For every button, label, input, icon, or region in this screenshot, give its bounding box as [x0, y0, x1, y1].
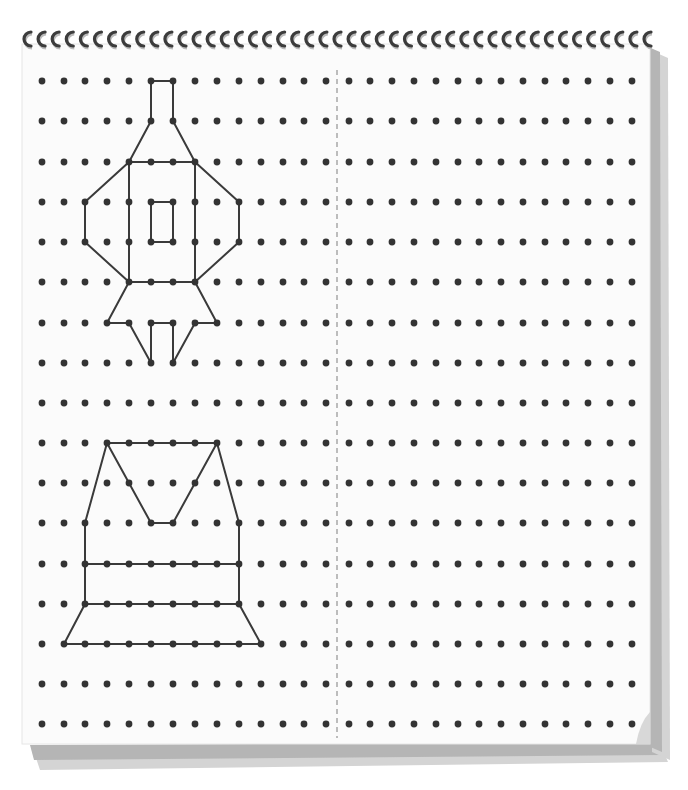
grid-dot [192, 159, 199, 166]
grid-dot [236, 320, 243, 327]
grid-dot [476, 320, 483, 327]
grid-dot [280, 78, 287, 85]
grid-dot [542, 118, 549, 125]
grid-dot [126, 721, 133, 728]
grid-dot [126, 681, 133, 688]
grid-dot [520, 561, 527, 568]
grid-dot [126, 400, 133, 407]
grid-dot [170, 239, 177, 246]
grid-dot [607, 561, 614, 568]
grid-dot [323, 360, 330, 367]
grid-dot [39, 320, 46, 327]
grid-dot [607, 641, 614, 648]
grid-dot [126, 279, 133, 286]
grid-dot [323, 279, 330, 286]
grid-dot [280, 400, 287, 407]
grid-dot [346, 118, 353, 125]
grid-dot [104, 601, 111, 608]
grid-dot [236, 159, 243, 166]
grid-dot [455, 199, 462, 206]
grid-dot [323, 601, 330, 608]
grid-dot [126, 320, 133, 327]
grid-dot [280, 681, 287, 688]
grid-dot [170, 641, 177, 648]
grid-dot [629, 199, 636, 206]
grid-dot [192, 279, 199, 286]
grid-dot [214, 199, 221, 206]
grid-dot [433, 199, 440, 206]
grid-dot [192, 320, 199, 327]
grid-dot [148, 601, 155, 608]
grid-dot [542, 400, 549, 407]
worksheet-page [0, 0, 688, 790]
grid-dot [367, 641, 374, 648]
grid-dot [629, 279, 636, 286]
grid-dot [323, 721, 330, 728]
grid-dot [542, 480, 549, 487]
grid-dot [563, 159, 570, 166]
grid-dot [346, 279, 353, 286]
grid-dot [39, 400, 46, 407]
grid-dot [629, 239, 636, 246]
grid-dot [520, 480, 527, 487]
grid-dot [433, 279, 440, 286]
grid-dot [148, 561, 155, 568]
grid-dot [236, 480, 243, 487]
grid-dot [367, 78, 374, 85]
grid-dot [323, 320, 330, 327]
grid-dot [563, 681, 570, 688]
grid-dot [39, 480, 46, 487]
grid-dot [104, 400, 111, 407]
grid-dot [323, 480, 330, 487]
grid-dot [104, 440, 111, 447]
grid-dot [476, 480, 483, 487]
grid-dot [61, 78, 68, 85]
grid-dot [39, 360, 46, 367]
grid-dot [214, 239, 221, 246]
grid-dot [629, 78, 636, 85]
grid-dot [476, 78, 483, 85]
grid-dot [563, 199, 570, 206]
grid-dot [607, 520, 614, 527]
grid-dot [367, 159, 374, 166]
grid-dot [542, 520, 549, 527]
grid-dot [563, 279, 570, 286]
grid-dot [170, 320, 177, 327]
grid-dot [170, 360, 177, 367]
grid-dot [433, 641, 440, 648]
grid-dot [563, 440, 570, 447]
grid-dot [126, 78, 133, 85]
grid-dot [433, 159, 440, 166]
grid-dot [323, 159, 330, 166]
grid-dot [455, 320, 462, 327]
grid-dot [563, 601, 570, 608]
grid-dot [104, 320, 111, 327]
grid-dot [170, 561, 177, 568]
grid-dot [39, 561, 46, 568]
grid-dot [280, 480, 287, 487]
grid-dot [563, 360, 570, 367]
grid-dot [214, 721, 221, 728]
grid-dot [39, 440, 46, 447]
grid-dot [455, 400, 462, 407]
grid-dot [346, 601, 353, 608]
grid-dot [346, 480, 353, 487]
grid-dot [520, 641, 527, 648]
grid-dot [148, 239, 155, 246]
grid-dot [411, 641, 418, 648]
grid-dot [280, 360, 287, 367]
grid-dot [629, 561, 636, 568]
grid-dot [126, 520, 133, 527]
grid-dot [367, 561, 374, 568]
grid-dot [214, 601, 221, 608]
grid-dot [629, 440, 636, 447]
grid-dot [585, 320, 592, 327]
grid-dot [585, 601, 592, 608]
grid-dot [476, 721, 483, 728]
grid-dot [39, 601, 46, 608]
grid-dot [433, 320, 440, 327]
grid-dot [258, 641, 265, 648]
grid-dot [411, 400, 418, 407]
grid-dot [82, 440, 89, 447]
grid-dot [258, 159, 265, 166]
